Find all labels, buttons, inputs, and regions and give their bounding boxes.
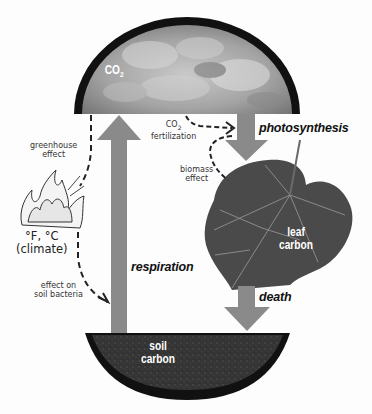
leaf-image (205, 140, 353, 290)
soil-bacteria-effect-label: effect on soil bacteria (34, 281, 83, 299)
flame-icon (21, 170, 84, 228)
biomass-effect-label: biomass effect (180, 165, 213, 183)
diagram-canvas (0, 0, 372, 414)
photosynthesis-label: photosynthesis (259, 121, 349, 135)
atmosphere-co2-label: CO2 (105, 64, 124, 81)
soil-carbon-label: soil carbon (141, 340, 175, 366)
death-label: death (259, 290, 291, 304)
climate-label: °F, °C (climate) (16, 230, 68, 256)
respiration-label: respiration (131, 260, 193, 274)
leaf-carbon-label: leaf carbon (279, 226, 313, 252)
carbon-cycle-diagram: CO2 photosynthesis respiration death lea… (0, 0, 372, 414)
soil-pool (85, 333, 290, 400)
greenhouse-effect-path (80, 115, 91, 186)
co2-fertilization-label: CO2 fertilization (151, 120, 196, 141)
greenhouse-effect-label: greenhouse effect (30, 141, 77, 159)
